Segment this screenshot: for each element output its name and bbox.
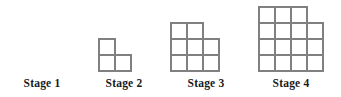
stage-grid-4 xyxy=(258,6,324,72)
stage-group-2: Stage 2 xyxy=(79,0,169,97)
unit-square xyxy=(275,55,291,71)
unit-square xyxy=(187,39,203,55)
stage-label-4: Stage 4 xyxy=(246,77,336,89)
unit-square xyxy=(187,55,203,71)
unit-square xyxy=(171,55,187,71)
unit-square xyxy=(307,39,323,55)
unit-square xyxy=(259,39,275,55)
stage-figure-3 xyxy=(170,22,218,70)
stage-figure-4 xyxy=(258,6,322,70)
unit-square xyxy=(291,39,307,55)
stage-figure-2 xyxy=(98,38,130,70)
unit-square xyxy=(275,39,291,55)
unit-square xyxy=(115,55,131,71)
unit-square xyxy=(187,23,203,39)
unit-square xyxy=(307,23,323,39)
stage-grid-2 xyxy=(98,38,132,72)
unit-square xyxy=(99,55,115,71)
unit-square xyxy=(259,7,275,23)
unit-square xyxy=(275,23,291,39)
unit-square xyxy=(275,7,291,23)
unit-square xyxy=(203,55,219,71)
unit-square xyxy=(291,55,307,71)
stage-label-2: Stage 2 xyxy=(79,77,169,89)
unit-square xyxy=(259,55,275,71)
stage-label-3: Stage 3 xyxy=(161,77,251,89)
stage-group-1: Stage 1 xyxy=(0,0,87,97)
unit-square xyxy=(171,39,187,55)
stage-grid-3 xyxy=(170,22,220,72)
unit-square xyxy=(307,55,323,71)
stage-label-1: Stage 1 xyxy=(0,77,87,89)
unit-square xyxy=(99,39,115,55)
stage-pattern-figure: Stage 1Stage 2Stage 3Stage 4 xyxy=(0,0,341,97)
unit-square xyxy=(291,23,307,39)
unit-square xyxy=(203,39,219,55)
unit-square xyxy=(171,23,187,39)
stage-group-4: Stage 4 xyxy=(246,0,336,97)
unit-square xyxy=(259,23,275,39)
stage-group-3: Stage 3 xyxy=(161,0,251,97)
unit-square xyxy=(291,7,307,23)
